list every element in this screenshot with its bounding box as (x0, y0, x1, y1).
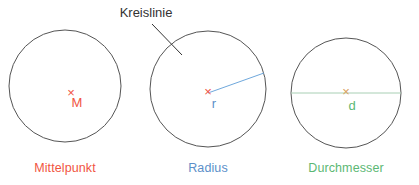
kreislinie-label: Kreislinie (120, 5, 173, 20)
caption-radius: Radius (188, 161, 228, 175)
caption-durchmesser: Durchmesser (308, 161, 383, 175)
circle-outline-mittelpunkt (9, 30, 121, 142)
circle-group-radius: × r Radius (150, 31, 266, 175)
center-mark-label-durchmesser: d (348, 98, 355, 113)
circle-terminology-diagram: × M Mittelpunkt × r Radius × d Durchmess… (0, 0, 419, 185)
center-mark-label-mittelpunkt: M (72, 95, 83, 110)
circle-group-durchmesser: × d Durchmesser (291, 38, 401, 175)
diagram-canvas: × M Mittelpunkt × r Radius × d Durchmess… (0, 0, 419, 185)
radius-line (208, 73, 264, 93)
center-mark-label-radius: r (212, 96, 217, 111)
center-mark-radius: × (204, 84, 212, 99)
kreislinie-annotation: Kreislinie (120, 5, 182, 55)
circle-group-mittelpunkt: × M Mittelpunkt (9, 30, 121, 175)
caption-mittelpunkt: Mittelpunkt (34, 161, 96, 175)
